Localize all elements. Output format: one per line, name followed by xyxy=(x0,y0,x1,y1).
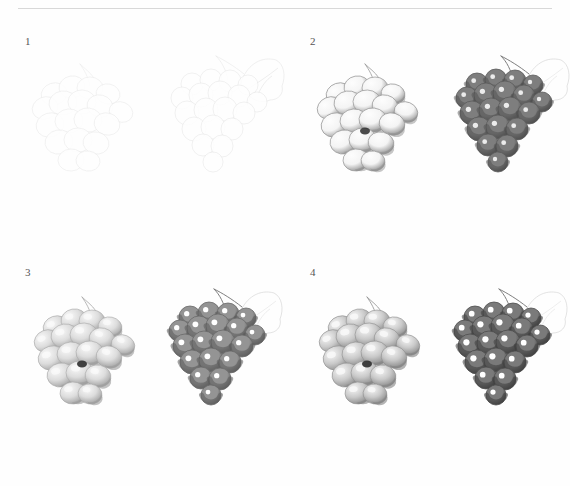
dark-grapes-drawing xyxy=(156,283,286,443)
panel-number-label: 4 xyxy=(310,267,316,278)
figure-dark-grapes-stage-3 xyxy=(156,283,286,443)
panel-stage-4: 4 xyxy=(285,249,570,484)
figure-green-grapes-stage-3 xyxy=(26,289,156,449)
panel-stage-2: 2 xyxy=(285,14,570,249)
panel-stage-1: 1 xyxy=(0,14,285,249)
panel-grid: 1 2 3 xyxy=(0,14,570,484)
green-grapes-drawing xyxy=(311,289,441,449)
figure-dark-grapes-stage-4 xyxy=(441,283,570,443)
green-grapes-drawing xyxy=(26,289,156,449)
figure-dark-grapes-stage-1 xyxy=(158,50,288,210)
figure-green-grapes-stage-1 xyxy=(24,56,154,216)
panel-number-label: 3 xyxy=(25,267,31,278)
panel-number-label: 1 xyxy=(25,36,31,47)
figure-dark-grapes-stage-2 xyxy=(443,50,570,210)
dark-grapes-drawing xyxy=(158,50,288,210)
green-grapes-drawing xyxy=(24,56,154,216)
panel-number-label: 2 xyxy=(310,36,316,47)
header-rule xyxy=(18,8,552,9)
panel-stage-3: 3 xyxy=(0,249,285,484)
scanned-page: 1 2 3 xyxy=(0,0,570,486)
green-grapes-drawing xyxy=(309,56,439,216)
figure-green-grapes-stage-2 xyxy=(309,56,439,216)
figure-green-grapes-stage-4 xyxy=(311,289,441,449)
dark-grapes-drawing xyxy=(443,50,570,210)
dark-grapes-drawing xyxy=(441,283,570,443)
